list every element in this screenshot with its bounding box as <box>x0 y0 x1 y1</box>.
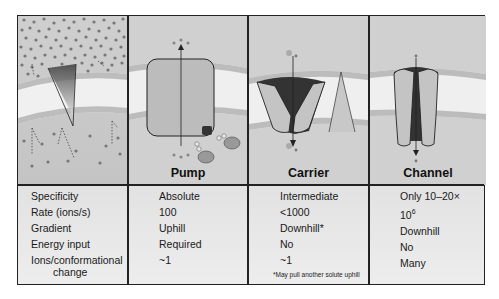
channel-gradient: Downhill <box>400 223 460 239</box>
pump-header: Pump <box>129 166 247 180</box>
label-ions-cont: change <box>31 266 123 278</box>
channel-ions: Many <box>400 255 460 271</box>
carrier-ions: ~1 <box>280 252 338 268</box>
channel-illustration <box>370 16 486 185</box>
channel-energy: No <box>400 239 460 255</box>
pump-energy: Required <box>159 236 202 252</box>
pump-illustration <box>129 16 247 185</box>
comparison-figure: Pump Carrier <box>17 15 485 285</box>
label-ions: Ions/conformational <box>31 254 123 266</box>
row-labels: Specificity Rate (ions/s) Gradient Energ… <box>31 188 123 278</box>
gradient-panel <box>18 16 128 185</box>
channel-header: Channel <box>370 166 486 180</box>
pump-gradient: Uphill <box>159 220 202 236</box>
column-divider <box>368 186 370 284</box>
channel-rate: 106 <box>400 204 460 223</box>
concentration-gradient-illustration <box>18 16 128 185</box>
carrier-specificity: Intermediate <box>280 188 338 204</box>
channel-panel: Channel <box>370 16 486 185</box>
carrier-rate: <1000 <box>280 204 338 220</box>
carrier-panel: Carrier <box>249 16 368 185</box>
column-divider <box>127 186 129 284</box>
column-divider <box>247 186 249 284</box>
carrier-gradient: Downhill* <box>280 220 338 236</box>
carrier-footnote: *May pull another solute uphill <box>273 271 360 278</box>
label-rate: Rate (ions/s) <box>31 204 123 220</box>
carrier-illustration <box>249 16 368 185</box>
label-energy: Energy input <box>31 236 123 252</box>
channel-values: Only 10–20× 106 Downhill No Many <box>400 188 460 271</box>
label-gradient: Gradient <box>31 220 123 236</box>
carrier-energy: No <box>280 236 338 252</box>
pump-panel: Pump <box>129 16 247 185</box>
channel-specificity: Only 10–20× <box>400 188 460 204</box>
carrier-values: Intermediate <1000 Downhill* No ~1 <box>280 188 338 268</box>
pump-rate: 100 <box>159 204 202 220</box>
pump-values: Absolute 100 Uphill Required ~1 <box>159 188 202 268</box>
label-specificity: Specificity <box>31 188 123 204</box>
carrier-header: Carrier <box>249 166 368 180</box>
pump-ions: ~1 <box>159 252 202 268</box>
comparison-table: Specificity Rate (ions/s) Gradient Energ… <box>18 186 484 284</box>
pump-specificity: Absolute <box>159 188 202 204</box>
